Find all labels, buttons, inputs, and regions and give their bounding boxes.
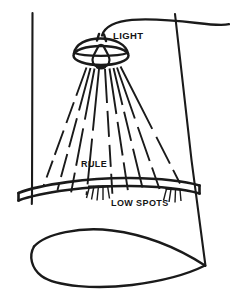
hatch-l6 xyxy=(88,186,110,187)
hatch-r5 xyxy=(166,189,182,190)
surface-bottom-sweep xyxy=(34,229,205,265)
surface-right-edge xyxy=(175,14,206,266)
bulb-neck xyxy=(99,45,104,46)
light-ray-l2 xyxy=(58,68,91,190)
light-ray-l3 xyxy=(71,69,95,194)
hatch-r3 xyxy=(175,190,176,203)
bulb-group xyxy=(93,45,110,70)
light-ray-l4 xyxy=(87,69,100,195)
light-ray-r5 xyxy=(121,67,181,184)
label-rule: RULE xyxy=(81,160,107,169)
surface-left-edge xyxy=(32,13,33,204)
line-drawing xyxy=(0,0,230,296)
bulb-base xyxy=(96,64,106,69)
hatch-r2 xyxy=(169,189,171,202)
diagram-canvas: LIGHT RULE LOW SPOTS xyxy=(0,0,230,296)
label-light: LIGHT xyxy=(113,31,144,41)
hatch-r4 xyxy=(180,190,181,201)
light-rays-group xyxy=(44,67,181,197)
lamp-rim-inner-line xyxy=(75,53,128,56)
label-low-spots: LOW SPOTS xyxy=(111,199,169,208)
surface-bottom-contour xyxy=(31,247,205,288)
